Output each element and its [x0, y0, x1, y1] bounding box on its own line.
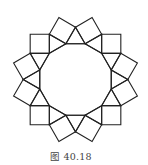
square — [30, 106, 49, 125]
triangle — [30, 53, 49, 70]
square — [49, 115, 75, 141]
triangle — [111, 70, 128, 89]
square — [111, 80, 137, 106]
triangle — [85, 106, 102, 125]
triangle — [23, 70, 40, 89]
figure-caption: 图 40.18 — [0, 149, 142, 163]
triangle — [102, 53, 121, 70]
triangle — [66, 27, 85, 44]
triangle — [49, 106, 66, 125]
triangle — [49, 34, 66, 53]
square — [49, 18, 75, 44]
triangle — [102, 89, 121, 106]
square — [102, 106, 121, 125]
figure-shapes — [14, 18, 138, 142]
square — [76, 115, 102, 141]
square — [111, 53, 137, 79]
triangle — [30, 89, 49, 106]
square — [76, 18, 102, 44]
square — [14, 80, 40, 106]
square — [14, 53, 40, 79]
triangle — [66, 115, 85, 132]
square — [102, 34, 121, 53]
dodecagon — [40, 44, 111, 115]
triangle — [85, 34, 102, 53]
dodecagon-squares-triangles-figure — [0, 0, 148, 145]
square — [30, 34, 49, 53]
